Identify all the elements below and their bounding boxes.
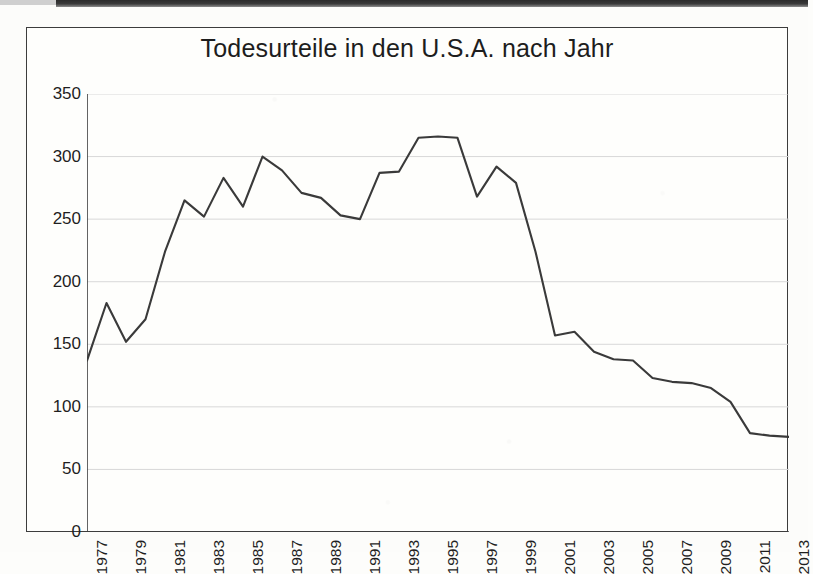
x-tick-label: 1991 (366, 540, 384, 574)
x-tick-label: 1983 (210, 540, 228, 574)
scan-edge-artifact-left (0, 0, 60, 5)
chart-frame: Todesurteile in den U.S.A. nach Jahr 050… (26, 27, 788, 532)
y-tick-label: 300 (53, 147, 81, 167)
x-tick-label: 2007 (678, 540, 696, 574)
x-tick-label: 1985 (249, 540, 267, 574)
y-tick-label: 50 (62, 459, 81, 479)
x-tick-label: 2013 (795, 540, 813, 574)
y-tick-label: 200 (53, 272, 81, 292)
x-tick-label: 2001 (561, 540, 579, 574)
x-tick-label: 1979 (132, 540, 150, 574)
y-tick-label: 0 (72, 522, 81, 542)
chart-title: Todesurteile in den U.S.A. nach Jahr (27, 34, 787, 63)
y-tick-label: 350 (53, 84, 81, 104)
scan-edge-artifact-top (56, 0, 808, 7)
x-tick-label: 1995 (444, 540, 462, 574)
x-tick-label: 2009 (717, 540, 735, 574)
x-tick-label: 1981 (171, 540, 189, 574)
x-tick-label: 1999 (522, 540, 540, 574)
plot-area: 0501001502002503003501977197919811983198… (87, 94, 789, 532)
x-tick-label: 1997 (483, 540, 501, 574)
x-tick-label: 1989 (327, 540, 345, 574)
y-tick-label: 250 (53, 209, 81, 229)
x-tick-label: 1987 (288, 540, 306, 574)
y-tick-label: 150 (53, 334, 81, 354)
x-tick-label: 2005 (639, 540, 657, 574)
x-tick-label: 1977 (93, 540, 111, 574)
x-tick-label: 2011 (756, 540, 774, 573)
y-tick-label: 100 (53, 397, 81, 417)
line-chart-svg (87, 94, 789, 532)
x-tick-label: 2003 (600, 540, 618, 574)
data-series-line (87, 137, 789, 437)
x-tick-label: 1993 (405, 540, 423, 574)
